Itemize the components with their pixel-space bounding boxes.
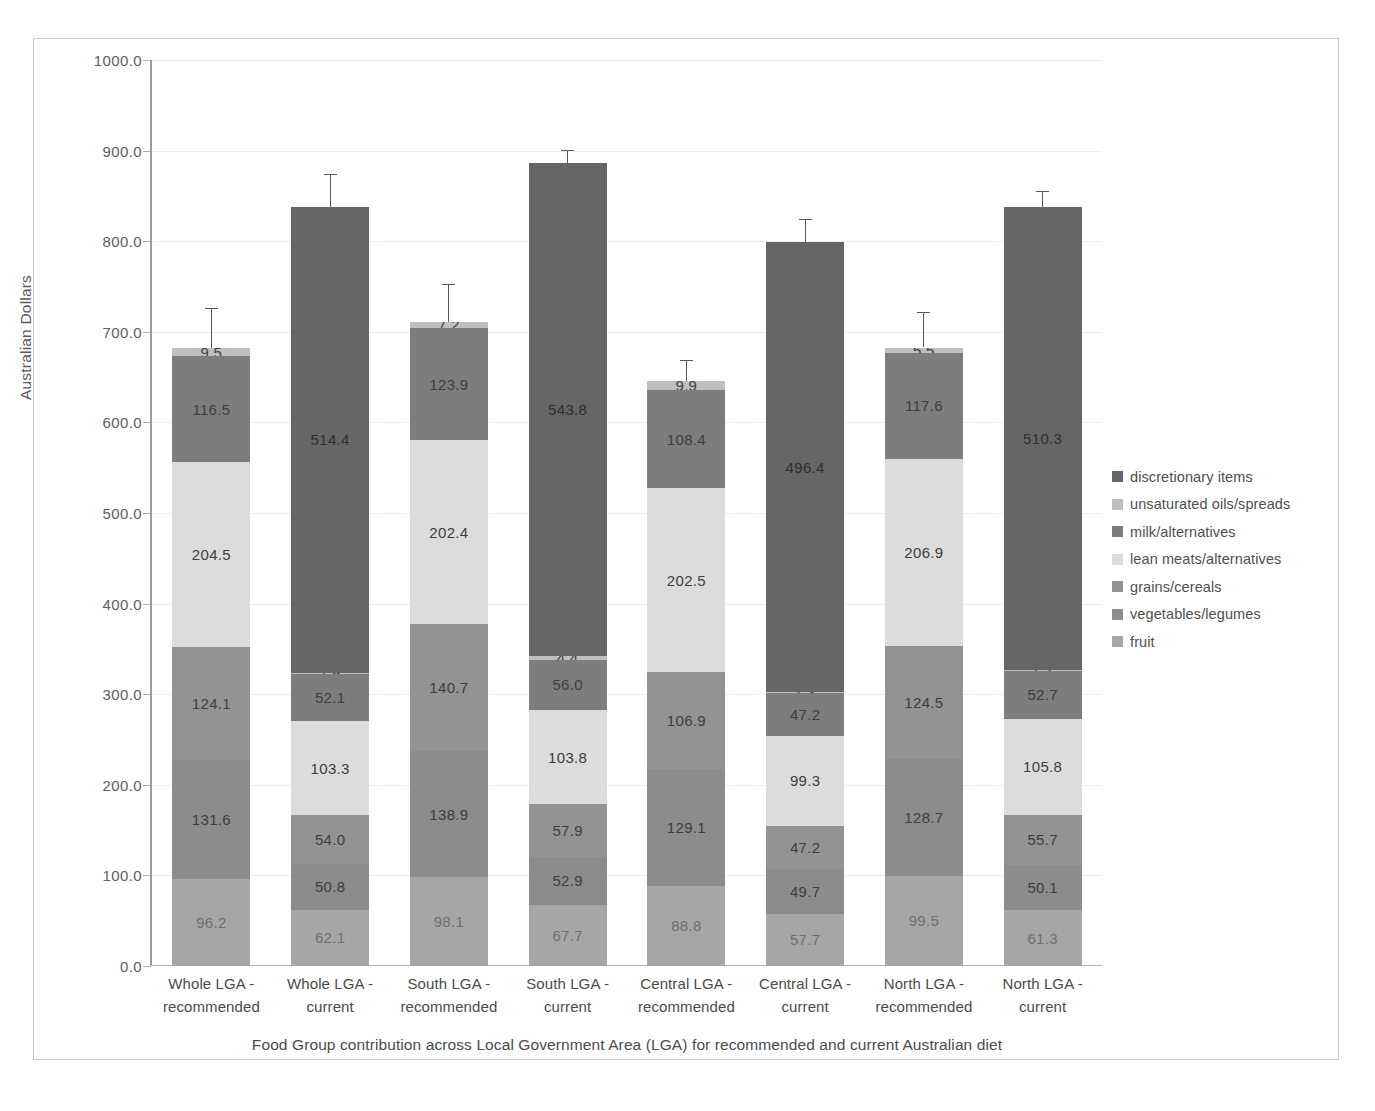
bar-segment[interactable]: 55.7	[1004, 815, 1082, 865]
bar-segment[interactable]: 62.1	[291, 910, 369, 966]
legend-item-label: discretionary items	[1130, 469, 1253, 485]
bar-stack[interactable]: 9.5116.5204.5124.1131.696.2	[172, 348, 250, 966]
bar-segment[interactable]: 54.0	[291, 815, 369, 864]
legend-item[interactable]: discretionary items	[1112, 463, 1362, 491]
bar-stack[interactable]: 5.5117.6206.9124.5128.799.5	[885, 348, 963, 966]
bar-stack[interactable]: 543.84.456.0103.857.952.967.7	[529, 163, 607, 966]
x-axis-tick-label-line: current	[746, 995, 865, 1018]
bar-segment[interactable]: 52.1	[291, 674, 369, 721]
bar-segment[interactable]: 61.3	[1004, 910, 1082, 966]
bar-group[interactable]: 7.2123.9202.4140.7138.998.1	[410, 60, 488, 966]
bar-segment[interactable]: 98.1	[410, 877, 488, 966]
bar-segment-value-label: 514.4	[311, 432, 350, 447]
bar-segment[interactable]: 56.0	[529, 660, 607, 711]
error-bar-cap	[442, 284, 455, 285]
y-axis-tick-label: 600.0	[102, 414, 142, 431]
bar-segment[interactable]: 57.9	[529, 804, 607, 856]
y-axis-tick-label: 500.0	[102, 505, 142, 522]
bar-segment[interactable]: 514.4	[291, 207, 369, 673]
x-axis-tick-label: Central LGA -recommended	[627, 972, 746, 1019]
bar-segment-value-label: 202.4	[429, 525, 468, 540]
bar-segment[interactable]: 108.4	[647, 390, 725, 488]
y-axis-tick-label: 300.0	[102, 686, 142, 703]
bar-group[interactable]: 9.5116.5204.5124.1131.696.2	[172, 60, 250, 966]
x-axis-tick-label-line: current	[983, 995, 1102, 1018]
bar-group[interactable]: 5.5117.6206.9124.5128.799.5	[885, 60, 963, 966]
bar-segment[interactable]: 124.5	[885, 646, 963, 759]
bar-segment-value-label: 116.5	[192, 402, 230, 417]
bar-segment-value-label: 50.1	[1027, 880, 1057, 895]
error-bar-cap	[799, 219, 812, 220]
y-axis-tick-label: 200.0	[102, 776, 142, 793]
bar-group[interactable]: 514.41.552.1103.354.050.862.1	[291, 60, 369, 966]
bar-segment[interactable]: 52.9	[529, 857, 607, 905]
bar-segment-value-label: 129.1	[667, 820, 706, 835]
bar-stack[interactable]: 514.41.552.1103.354.050.862.1	[291, 207, 369, 966]
bar-segment[interactable]: 96.2	[172, 879, 250, 966]
bar-segment[interactable]: 496.4	[766, 242, 844, 692]
bar-segment[interactable]: 49.7	[766, 869, 844, 914]
bar-segment-value-label: 510.3	[1023, 431, 1062, 446]
bar-segment[interactable]: 52.7	[1004, 671, 1082, 719]
bar-group[interactable]: 9.9108.4202.5106.9129.188.8	[647, 60, 725, 966]
bar-segment[interactable]: 204.5	[172, 462, 250, 647]
bar-segment-value-label: 117.6	[905, 398, 943, 413]
bar-segment[interactable]: 131.6	[172, 760, 250, 879]
bar-group[interactable]: 496.41.347.299.347.249.757.7	[766, 60, 844, 966]
bar-segment[interactable]: 138.9	[410, 751, 488, 877]
bar-group[interactable]: 510.31.752.7105.855.750.161.3	[1004, 60, 1082, 966]
bar-segment[interactable]: 206.9	[885, 459, 963, 646]
bar-segment[interactable]: 67.7	[529, 905, 607, 966]
x-axis-tick-label-line: North LGA -	[983, 972, 1102, 995]
bar-segment[interactable]: 99.5	[885, 876, 963, 966]
bar-segment[interactable]: 128.7	[885, 759, 963, 876]
bar-segment[interactable]: 47.2	[766, 826, 844, 869]
bar-segment[interactable]: 543.8	[529, 163, 607, 656]
legend-item[interactable]: lean meats/alternatives	[1112, 546, 1362, 574]
bar-segment[interactable]: 202.5	[647, 488, 725, 671]
bar-segment[interactable]: 57.7	[766, 914, 844, 966]
x-axis-tick-labels: Whole LGA -recommendedWhole LGA -current…	[152, 972, 1102, 1032]
legend-swatch-icon	[1112, 526, 1123, 537]
legend-item[interactable]: grains/cereals	[1112, 573, 1362, 601]
bar-segment[interactable]: 140.7	[410, 624, 488, 751]
legend-item[interactable]: vegetables/legumes	[1112, 601, 1362, 629]
bar-segment[interactable]: 510.3	[1004, 207, 1082, 669]
bar-segment[interactable]: 117.6	[885, 353, 963, 460]
x-axis-tick-label-line: current	[508, 995, 627, 1018]
bar-stack[interactable]: 7.2123.9202.4140.7138.998.1	[410, 322, 488, 966]
bar-stack[interactable]: 496.41.347.299.347.249.757.7	[766, 242, 844, 966]
y-axis-title-text: Australian Dollars	[17, 140, 35, 400]
bar-segment[interactable]: 50.8	[291, 864, 369, 910]
bar-segment[interactable]: 47.2	[766, 693, 844, 736]
x-axis-tick-label-line: North LGA -	[865, 972, 984, 995]
bar-segment[interactable]: 106.9	[647, 672, 725, 769]
bar-segment[interactable]: 116.5	[172, 356, 250, 462]
y-axis-tick-label: 1000.0	[94, 52, 142, 69]
bar-stack[interactable]: 510.31.752.7105.855.750.161.3	[1004, 207, 1082, 966]
bar-stack[interactable]: 9.9108.4202.5106.9129.188.8	[647, 381, 725, 966]
bar-group[interactable]: 543.84.456.0103.857.952.967.7	[529, 60, 607, 966]
legend-item[interactable]: milk/alternatives	[1112, 518, 1362, 546]
bar-segment[interactable]: 103.3	[291, 721, 369, 815]
legend-item[interactable]: unsaturated oils/spreads	[1112, 491, 1362, 519]
bar-segment[interactable]: 103.8	[529, 710, 607, 804]
bar-segment[interactable]: 99.3	[766, 736, 844, 826]
bar-segment[interactable]: 123.9	[410, 328, 488, 440]
legend-swatch-icon	[1112, 636, 1123, 647]
legend-item-label: vegetables/legumes	[1130, 606, 1261, 622]
x-axis-tick-label-line: recommended	[865, 995, 984, 1018]
legend-item[interactable]: fruit	[1112, 628, 1362, 656]
bar-segment[interactable]: 202.4	[410, 440, 488, 623]
bar-segment[interactable]: 50.1	[1004, 865, 1082, 910]
bar-segment[interactable]: 124.1	[172, 647, 250, 759]
bar-segment[interactable]: 9.9	[647, 381, 725, 390]
bar-segment-value-label: 50.8	[315, 879, 345, 894]
bar-segment[interactable]: 88.8	[647, 886, 725, 966]
bar-segment[interactable]: 105.8	[1004, 719, 1082, 815]
error-bar	[211, 308, 212, 348]
bar-segment[interactable]: 9.5	[172, 348, 250, 357]
bar-segment[interactable]: 129.1	[647, 769, 725, 886]
x-axis-tick-label-line: Central LGA -	[627, 972, 746, 995]
x-axis-tick-label: Central LGA -current	[746, 972, 865, 1019]
